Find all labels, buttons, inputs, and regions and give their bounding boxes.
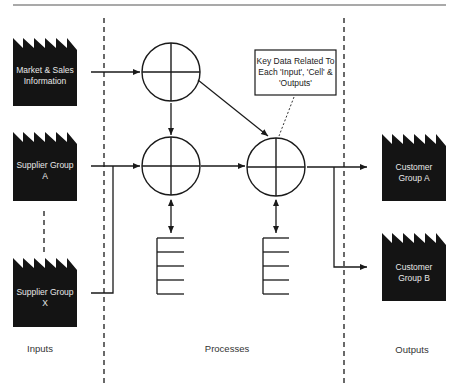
output-label-customer-a: Customer Group A <box>382 162 446 183</box>
label-line: Group A <box>382 173 446 184</box>
input-label-supplier-a: Supplier Group A <box>11 160 79 181</box>
zone-label-processes: Processes <box>187 343 267 354</box>
output-label-customer-b: Customer Group B <box>382 262 446 283</box>
input-label-supplier-x: Supplier Group X <box>11 287 79 308</box>
process-diagram <box>0 0 459 389</box>
callout-line: Key Data Related To <box>255 56 336 67</box>
label-line: Customer <box>382 162 446 173</box>
zone-label-inputs: Inputs <box>10 343 70 354</box>
process-cell-2 <box>142 137 200 195</box>
data-store-2 <box>263 238 289 294</box>
process-cell-1 <box>142 43 200 101</box>
label-line: Market & Sales <box>13 65 77 76</box>
label-line: X <box>11 298 79 309</box>
line-supplier-x-to-cell2 <box>91 166 113 293</box>
label-line: Supplier Group <box>11 160 79 171</box>
label-line: Supplier Group <box>11 287 79 298</box>
label-line: A <box>11 171 79 182</box>
callout-text: Key Data Related To Each 'Input', 'Cell'… <box>255 56 336 89</box>
arrow-cell3-to-customer-b <box>334 167 367 267</box>
input-label-market: Market & Sales Information <box>13 65 77 86</box>
label-line: Information <box>13 76 77 87</box>
data-store-1 <box>157 238 184 294</box>
zone-label-outputs: Outputs <box>380 344 444 355</box>
process-cell-3 <box>247 138 305 196</box>
label-line: Group B <box>382 273 446 284</box>
callout-line: Each 'Input', 'Cell' & <box>255 67 336 78</box>
callout-line: 'Outputs' <box>255 78 336 89</box>
callout-pointer <box>279 97 294 136</box>
label-line: Customer <box>382 262 446 273</box>
